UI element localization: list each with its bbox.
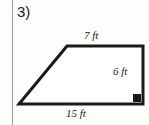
- dimension-label-right: 6 ft: [113, 65, 127, 77]
- worksheet-page: 3) 7 ft 6 ft 15 ft: [0, 0, 149, 125]
- dimension-label-top: 7 ft: [84, 29, 98, 41]
- dimension-label-bottom: 15 ft: [66, 107, 86, 119]
- right-angle-marker-icon: [133, 94, 141, 102]
